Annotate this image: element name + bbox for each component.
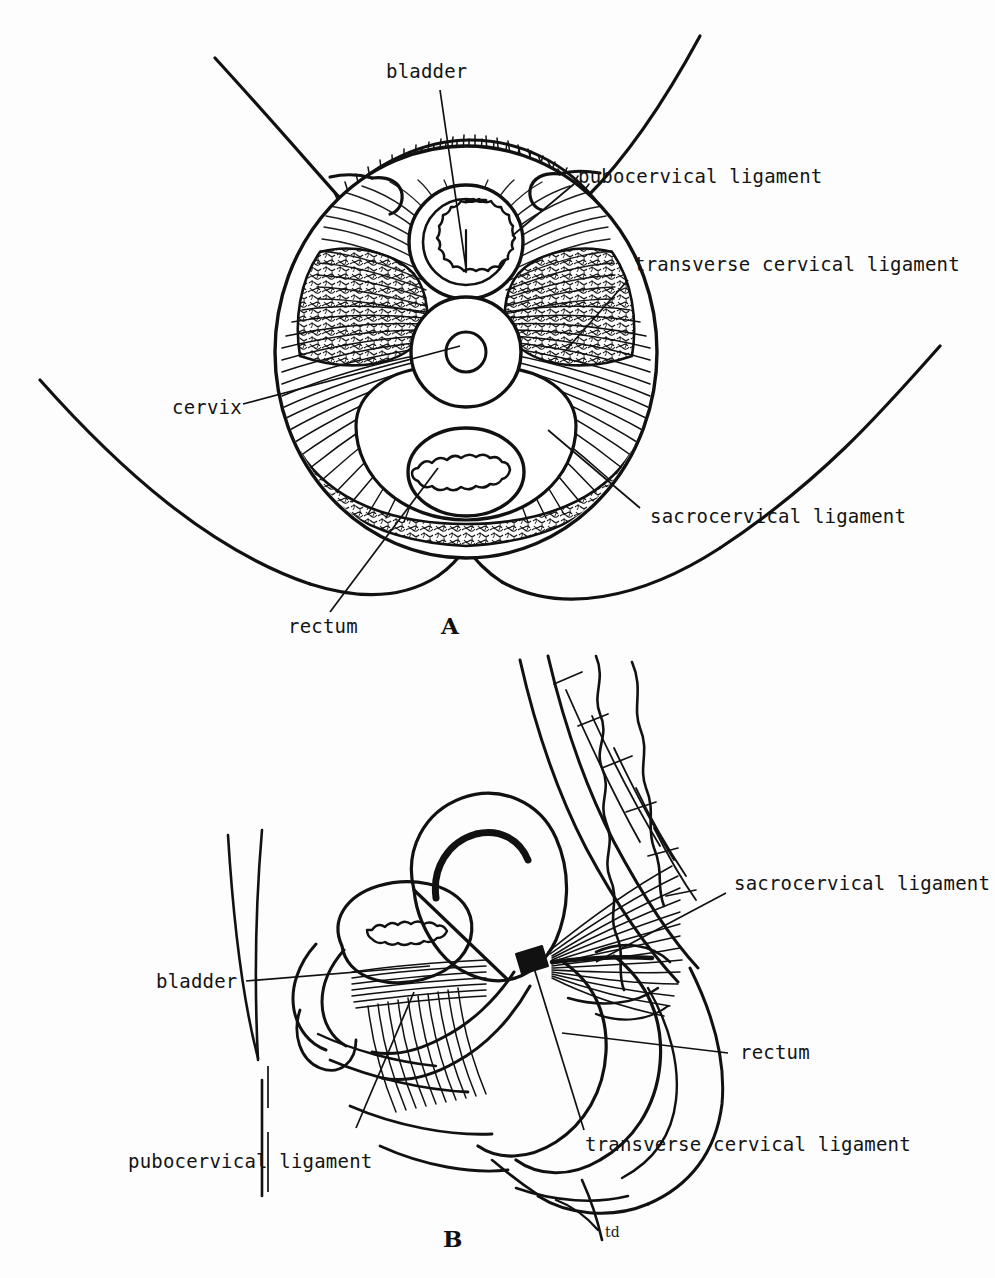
figure-page: bladder pubocervical ligament transverse… [0,0,995,1278]
leader-bladder-b [246,966,430,981]
leader-pubocervical-b3 [356,992,414,1128]
label-rectum-b: rectum [740,1043,810,1062]
label-rectum-a: rectum [288,617,358,636]
label-sacrocervical-ligament-a: sacrocervical ligament [650,507,906,526]
label-pubocervical-ligament-a: pubocervical ligament [578,167,822,186]
label-transverse-cervical-ligament-b: transverse cervical ligament [585,1135,911,1154]
label-bladder-b: bladder [156,972,237,991]
panel-b-leader-lines [0,0,995,1278]
leader-sacrocervical-b [596,893,726,962]
label-cervix-a: cervix [172,398,242,417]
label-bladder-a: bladder [386,62,467,81]
label-transverse-cervical-ligament-a: transverse cervical ligament [634,255,960,274]
leader-transverse-cervical-b [534,968,584,1130]
panel-letter-a: A [441,612,459,639]
leader-rectum-b [562,1033,728,1053]
panel-letter-b: B [443,1225,462,1252]
artist-signature: td [605,1224,620,1240]
label-pubocervical-ligament-b: pubocervical ligament [128,1152,372,1171]
label-sacrocervical-ligament-b: sacrocervical ligament [734,874,990,893]
